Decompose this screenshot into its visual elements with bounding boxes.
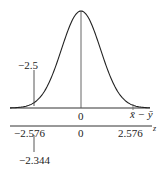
lower-annotation-label: −2.344 [19, 154, 50, 166]
upper-annotation-label: −2.5 [18, 59, 38, 71]
lower-axis-label: z [152, 124, 157, 133]
chart-canvas: −2.5 0 x̄ − ȳ −2.576 0 2.576 z −2.344 [0, 0, 167, 170]
upper-zero-label: 0 [78, 110, 84, 122]
upper-axis-label: x̄ − ȳ [129, 108, 154, 120]
normal-distribution-figure: −2.5 0 x̄ − ȳ −2.576 0 2.576 z −2.344 [0, 0, 167, 170]
lower-right-tick-label: 2.576 [118, 127, 143, 139]
lower-zero-label: 0 [78, 127, 84, 139]
lower-left-tick-label: −2.576 [14, 127, 45, 139]
